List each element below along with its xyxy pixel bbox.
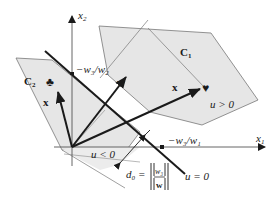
distance-fraction: w₃ w: [151, 163, 168, 190]
club-marker-icon: ♣: [46, 75, 54, 89]
svg-text:w₃: w₃: [155, 167, 163, 176]
vector-x-c1-label: x: [172, 81, 178, 93]
distance-label: d₀ =: [126, 168, 146, 180]
positive-region-label: u > 0: [210, 98, 234, 110]
x2-axis-label: x2: [77, 9, 87, 23]
x1-intercept-label: −w₃/w₁: [168, 134, 201, 146]
x2-intercept-tick: [70, 72, 74, 75]
vector-x-c2-label: x: [43, 96, 49, 108]
x2-intercept-label: −w₃/w₂: [76, 63, 109, 75]
heart-marker-icon: ♥: [202, 81, 209, 95]
boundary-label: u = 0: [185, 170, 209, 182]
x1-axis-label: x1: [255, 132, 264, 146]
negative-region-label: u < 0: [91, 148, 115, 160]
weight-vector-label: w: [117, 76, 125, 88]
svg-text:w: w: [156, 180, 163, 190]
x1-intercept-tick: [160, 145, 164, 149]
linear-classifier-diagram: x2 x1 C1 C2 −w₃/w₂ −w₃/w₁ w x x ♥ ♣ u > …: [0, 0, 279, 202]
distance-arrow-extension: [145, 130, 150, 135]
